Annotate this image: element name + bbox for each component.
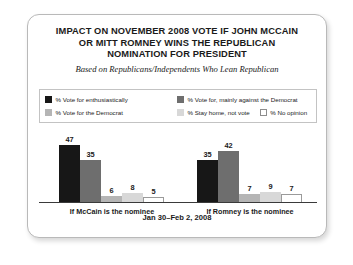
- legend-label: % Vote for enthusiastically: [56, 96, 128, 103]
- legend-item-stay-home: % Stay home, not vote: [177, 109, 250, 116]
- title-block: IMPACT ON NOVEMBER 2008 VOTE IF JOHN MCC…: [28, 15, 326, 74]
- legend-swatch-icon: [177, 109, 184, 116]
- legend-row-1: % Vote for enthusiastically % Vote for, …: [45, 94, 311, 105]
- bar-group-bars: 4735685: [59, 133, 165, 203]
- survey-date-note: Jan 30–Feb 2, 2008: [28, 213, 326, 222]
- bar-slot: 35: [197, 133, 218, 203]
- bar-value-label: 35: [86, 151, 94, 159]
- bar-group-romney: 3542797 If Romney is the nominee: [197, 133, 303, 203]
- x-axis-line: [39, 202, 317, 203]
- bar-slot: 6: [101, 133, 122, 203]
- legend-label: % No opinion: [270, 109, 307, 116]
- legend-label: % Vote for the Democrat: [56, 109, 123, 116]
- legend-item-vote-enthusiastically: % Vote for enthusiastically: [45, 96, 177, 103]
- legend-row-2: % Vote for the Democrat % Stay home, not…: [45, 107, 311, 118]
- bar-value-label: 35: [203, 151, 211, 159]
- legend-swatch-icon: [260, 109, 267, 116]
- bar-value-label: 7: [247, 185, 251, 193]
- bar: [218, 151, 239, 203]
- bar-slot: 5: [143, 133, 164, 203]
- chart-plot-area: 4735685 If McCain is the nominee 3542797…: [39, 133, 317, 203]
- bar-slot: 8: [122, 133, 143, 203]
- bar-value-label: 42: [224, 142, 232, 150]
- legend-label: % Vote for, mainly against the Democrat: [188, 96, 298, 103]
- legend-item-no-opinion: % No opinion: [260, 109, 307, 116]
- legend-swatch-icon: [45, 96, 52, 103]
- legend-item-vote-democrat: % Vote for the Democrat: [45, 109, 177, 116]
- bar-slot: 42: [218, 133, 239, 203]
- chart-legend: % Vote for enthusiastically % Vote for, …: [39, 89, 317, 123]
- bar-value-label: 9: [268, 183, 272, 191]
- chart-subtitle: Based on Republicans/Independents Who Le…: [28, 64, 326, 74]
- bar-group-mccain: 4735685 If McCain is the nominee: [59, 133, 165, 203]
- legend-item-vote-against-democrat: % Vote for, mainly against the Democrat: [177, 96, 298, 103]
- bar-value-label: 5: [151, 188, 155, 196]
- chart-title-line-2: OR MITT ROMNEY WINS THE REPUBLICAN: [28, 38, 326, 50]
- bar-slot: 9: [260, 133, 281, 203]
- bar-slot: 47: [59, 133, 80, 203]
- bar-group-bars: 3542797: [197, 133, 303, 203]
- chart-title-line-3: NOMINATION FOR PRESIDENT: [28, 49, 326, 61]
- bar: [59, 145, 80, 203]
- bar-slot: 7: [239, 133, 260, 203]
- bar-slot: 7: [281, 133, 302, 203]
- chart-title-line-1: IMPACT ON NOVEMBER 2008 VOTE IF JOHN MCC…: [28, 26, 326, 38]
- legend-swatch-icon: [45, 109, 52, 116]
- bar: [197, 160, 218, 203]
- bar-value-label: 47: [65, 136, 73, 144]
- legend-label: % Stay home, not vote: [188, 109, 250, 116]
- bar-value-label: 6: [109, 187, 113, 195]
- bar: [80, 160, 101, 203]
- bar-value-label: 8: [130, 184, 134, 192]
- chart-card: IMPACT ON NOVEMBER 2008 VOTE IF JOHN MCC…: [27, 14, 327, 238]
- bar-value-label: 7: [289, 185, 293, 193]
- bar-slot: 35: [80, 133, 101, 203]
- legend-swatch-icon: [177, 96, 184, 103]
